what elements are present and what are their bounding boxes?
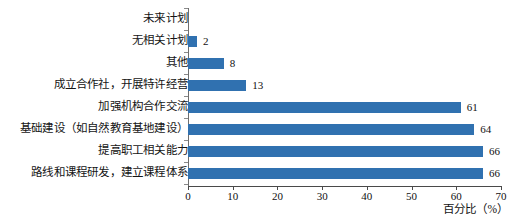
- category-axis-tick: [184, 162, 188, 163]
- category-label: 基础建设（如自然教育基地建设）: [20, 123, 188, 135]
- bar-container: [188, 8, 194, 30]
- bar[interactable]: [188, 58, 224, 69]
- bar[interactable]: [188, 36, 197, 47]
- bar-value-label: 61: [467, 102, 478, 113]
- table-row: 基础建设（如自然教育基地建设） 64: [0, 118, 520, 140]
- table-row: 成立合作社，开展特许经营 13: [0, 74, 520, 96]
- bar-container: 66: [188, 140, 500, 162]
- category-axis-tick: [184, 8, 188, 9]
- axis-tick-label: 70: [496, 191, 507, 202]
- category-axis-tick: [184, 118, 188, 119]
- bar[interactable]: [188, 102, 461, 113]
- bar-container: 66: [188, 162, 500, 184]
- horizontal-bar-chart: 未来计划 无相关计划 2 其他 8 成立合作社，开展特许经营: [0, 0, 520, 221]
- table-row: 路线和课程研发，建立课程体系 66: [0, 162, 520, 184]
- bar-value-label: 64: [480, 124, 491, 135]
- axis-tick-label: 10: [227, 191, 238, 202]
- axis-tick-label: 30: [317, 191, 328, 202]
- category-axis-tick: [184, 30, 188, 31]
- bar-value-label: 66: [489, 168, 500, 179]
- bar-container: 64: [188, 118, 491, 140]
- category-label: 路线和课程研发，建立课程体系: [31, 167, 188, 179]
- table-row: 无相关计划 2: [0, 30, 520, 52]
- axis-tick-label: 50: [406, 191, 417, 202]
- category-axis-tick: [184, 140, 188, 141]
- axis-tick-label: 0: [185, 191, 191, 202]
- category-label: 其他: [166, 57, 188, 69]
- category-label: 无相关计划: [132, 35, 188, 47]
- bar-container: 8: [188, 52, 235, 74]
- bar[interactable]: [188, 80, 246, 91]
- bar[interactable]: [188, 146, 483, 157]
- category-axis-tick: [184, 52, 188, 53]
- bar[interactable]: [188, 124, 474, 135]
- category-label: 成立合作社，开展特许经营: [54, 79, 188, 91]
- bar-value-label: 8: [230, 58, 236, 69]
- category-label: 未来计划: [143, 13, 188, 25]
- value-axis-line: [188, 186, 501, 187]
- axis-tick-label: 60: [451, 191, 462, 202]
- category-axis-tick: [184, 96, 188, 97]
- bar-container: 61: [188, 96, 478, 118]
- table-row: 加强机构合作交流 61: [0, 96, 520, 118]
- bar-rows: 未来计划 无相关计划 2 其他 8 成立合作社，开展特许经营: [0, 8, 520, 184]
- bar-value-label: 66: [489, 146, 500, 157]
- table-row: 其他 8: [0, 52, 520, 74]
- bar-value-label: 2: [203, 36, 209, 47]
- category-axis-tick: [184, 74, 188, 75]
- table-row: 未来计划: [0, 8, 520, 30]
- table-row: 提高职工相关能力 66: [0, 140, 520, 162]
- bar-container: 2: [188, 30, 208, 52]
- axis-tick-label: 40: [361, 191, 372, 202]
- bar-value-label: 13: [252, 80, 263, 91]
- bar-container: 13: [188, 74, 263, 96]
- category-axis-tick: [184, 184, 188, 185]
- x-axis-title: 百分比（%）: [443, 204, 508, 216]
- category-label: 加强机构合作交流: [98, 101, 188, 113]
- category-label: 提高职工相关能力: [98, 145, 188, 157]
- bar[interactable]: [188, 168, 483, 179]
- axis-tick-label: 20: [272, 191, 283, 202]
